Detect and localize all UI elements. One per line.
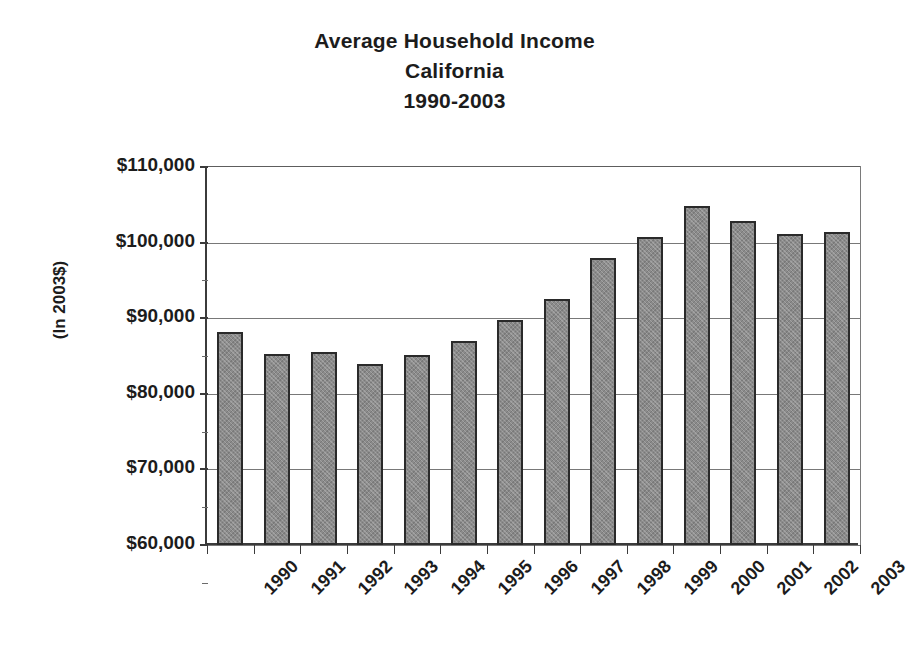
x-axis-tick-label: 1997 [587,556,630,599]
bar [684,206,710,545]
x-axis-tick [394,545,395,554]
y-axis-tick-label: $110,000 [65,154,195,176]
x-axis-tick-label: 1992 [353,556,396,599]
bar [451,341,477,545]
x-axis-tick-label: 1995 [493,556,536,599]
y-axis-tick-label: $60,000 [65,532,195,554]
x-axis-tick-label: 1996 [540,556,583,599]
bar [311,352,337,545]
x-axis-tick-label: 1990 [260,556,303,599]
x-axis-tick [534,545,535,554]
y-axis-tick-labels: $110,000$100,000$90,000$80,000$70,000$60… [58,167,195,545]
x-axis-tick [720,545,721,554]
bar [824,232,850,545]
x-axis-tick-label: 1999 [680,556,723,599]
x-axis-tick-label: 1998 [633,556,676,599]
y-axis-tick-label: $100,000 [65,230,195,252]
x-axis-tick [627,545,628,554]
bar [217,332,243,545]
x-axis-tick [347,545,348,554]
x-axis-tick [487,545,488,554]
x-axis-tick-label: 1994 [447,556,490,599]
y-axis-tick-label: $70,000 [65,456,195,478]
y-axis-tick-label: $80,000 [65,381,195,403]
x-axis-tick [767,545,768,554]
bar [730,221,756,545]
bar [544,299,570,545]
bar [590,258,616,545]
bar [357,364,383,545]
x-axis-tick-label: 2003 [866,556,909,599]
bar [497,320,523,545]
x-axis-tick [207,545,208,554]
x-axis-tick [673,545,674,554]
x-axis-tick [440,545,441,554]
x-axis-tick-label: 1993 [400,556,443,599]
bar [404,355,430,546]
chart-figure: Average Household Income California 1990… [0,0,909,662]
x-axis-tick [580,545,581,554]
bar [264,354,290,545]
x-axis-tick-label: 1991 [307,556,350,599]
plot-area [205,167,858,545]
y-axis-tick-label: $90,000 [65,305,195,327]
x-axis-tick [300,545,301,554]
x-axis-tick [860,545,861,554]
x-axis-tick-labels: 1990199119921993199419951996199719981999… [205,556,865,646]
chart-title-line-3: 1990-2003 [0,86,909,116]
chart-title: Average Household Income California 1990… [0,26,909,116]
x-axis-tick [254,545,255,554]
chart-title-line-1: Average Household Income [0,26,909,56]
x-axis-tick-label: 2000 [726,556,769,599]
chart-title-line-2: California [0,56,909,86]
plot-right-border [860,166,861,545]
bar-series [207,167,860,545]
bar [777,234,803,545]
x-axis-tick-label: 2001 [773,556,816,599]
x-axis-tick-label: 2002 [820,556,863,599]
bar [637,237,663,545]
x-axis-tick [813,545,814,554]
